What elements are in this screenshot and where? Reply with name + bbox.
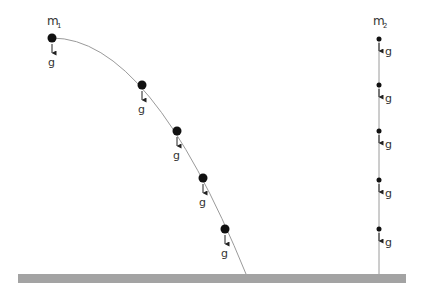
projectile-ball-5: g — [221, 225, 230, 261]
svg-text:g: g — [385, 45, 392, 58]
m1-label: m 1 — [47, 14, 61, 30]
projectile-ball-4: g — [199, 174, 208, 210]
svg-text:g: g — [385, 92, 392, 105]
svg-text:g: g — [173, 149, 180, 162]
svg-text:g: g — [138, 103, 145, 116]
projectile-ball-2: g — [138, 81, 147, 117]
m2-label: m 2 — [373, 14, 387, 30]
svg-text:g: g — [199, 196, 206, 209]
svg-text:g: g — [48, 56, 55, 69]
svg-text:g: g — [385, 236, 392, 249]
svg-text:2: 2 — [383, 22, 387, 30]
projectile-ball-3: g — [173, 127, 182, 163]
projectile-trajectory — [52, 38, 246, 274]
svg-text:g: g — [385, 187, 392, 200]
ground — [18, 274, 406, 283]
svg-text:g: g — [221, 247, 228, 260]
diagram-canvas: m 1 m 2 g g g g g — [0, 0, 422, 297]
svg-text:g: g — [385, 138, 392, 151]
projectile-ball-1: g — [48, 34, 57, 70]
projectile-positions: g g g g g — [48, 34, 230, 261]
svg-text:1: 1 — [57, 22, 61, 30]
